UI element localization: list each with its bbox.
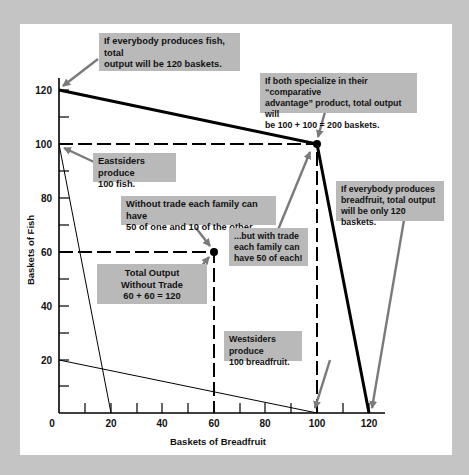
svg-text:80: 80 — [41, 193, 53, 204]
svg-text:100: 100 — [35, 139, 52, 150]
callout-with-trade: ...but with trade each family can have 5… — [229, 228, 308, 266]
svg-text:120: 120 — [361, 418, 378, 429]
specialization-point — [313, 140, 321, 148]
svg-text:40: 40 — [41, 301, 53, 312]
svg-text:100: 100 — [309, 418, 326, 429]
x-ticks — [85, 403, 369, 413]
svg-text:20: 20 — [41, 355, 53, 366]
y-ticks — [59, 90, 69, 386]
x-axis-title: Baskets of Breadfruit — [170, 436, 267, 447]
y-axis-title: Baskets of Fish — [25, 215, 36, 285]
svg-text:80: 80 — [259, 418, 271, 429]
svg-text:120: 120 — [35, 85, 52, 96]
no-trade-point — [210, 248, 218, 256]
callout-without-trade: Without trade each family can have 50 of… — [121, 196, 276, 225]
svg-text:40: 40 — [156, 418, 168, 429]
svg-text:0: 0 — [49, 418, 55, 429]
callout-total-no-trade: Total Output Without Trade 60 + 60 = 120 — [97, 264, 207, 304]
callout-eastsiders: Eastsiders produce 100 fish. — [93, 153, 176, 182]
svg-text:60: 60 — [41, 247, 53, 258]
callout-breadfruit-all: If everybody produces breadfruit, total … — [336, 181, 444, 221]
callout-specialize: If both specialize in their “comparative… — [260, 73, 417, 113]
svg-text:20: 20 — [105, 418, 117, 429]
svg-text:60: 60 — [208, 418, 220, 429]
callout-westsiders: Westsiders produce 100 breadfruit. — [224, 331, 302, 361]
callout-fish-all: If everybody produces fish, total output… — [99, 33, 240, 71]
x-tick-labels: 0 20 40 60 80 100 120 — [49, 418, 378, 429]
y-tick-labels: 20 40 60 80 100 120 — [35, 85, 52, 366]
